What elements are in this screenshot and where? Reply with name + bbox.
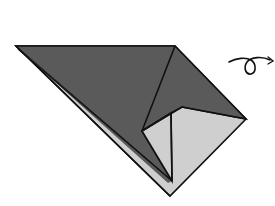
turn-over-arrow-icon [229,57,273,74]
fold-line-vertical [171,113,172,181]
origami-diagram [0,0,275,206]
